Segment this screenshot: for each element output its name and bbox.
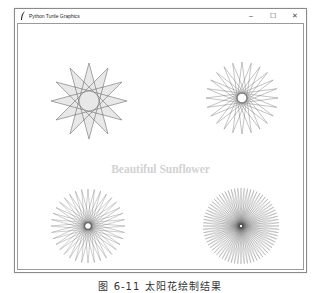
- sunflower-36-figure: [51, 189, 125, 263]
- turtle-graphics-window: Python Turtle Graphics – ☐ ✕ Beautiful S…: [14, 8, 307, 273]
- sunflower-24-figure: [206, 62, 278, 134]
- close-button[interactable]: ✕: [284, 9, 306, 22]
- feather-icon: [19, 11, 27, 21]
- figure-caption: 图 6-11 太阳花绘制结果: [0, 278, 320, 293]
- title-bar[interactable]: Python Turtle Graphics – ☐ ✕: [15, 9, 306, 22]
- minimize-button[interactable]: –: [240, 9, 262, 22]
- window-title: Python Turtle Graphics: [29, 13, 80, 19]
- sunflower-drawings: [18, 24, 304, 270]
- maximize-button[interactable]: ☐: [262, 9, 284, 22]
- turtle-canvas[interactable]: Beautiful Sunflower: [17, 23, 304, 270]
- star-12-figure: [51, 63, 127, 139]
- canvas-title-text: Beautiful Sunflower: [18, 163, 303, 175]
- window-controls: – ☐ ✕: [240, 9, 306, 22]
- sunflower-72-figure: [203, 188, 279, 264]
